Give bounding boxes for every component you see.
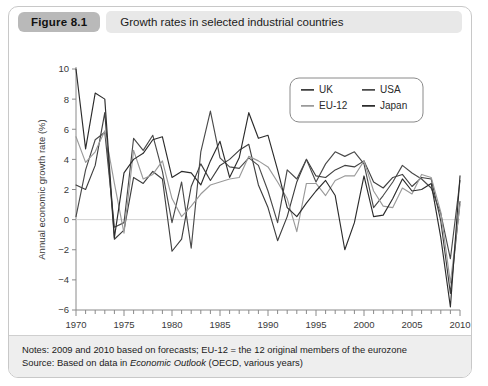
y-tick-label: 10: [58, 63, 69, 74]
source-suffix: (OECD, various years): [206, 357, 303, 368]
y-tick-label: −6: [58, 304, 69, 315]
y-tick-label: −2: [58, 244, 69, 255]
y-axis-title: Annual economic growth rate (%): [36, 119, 47, 259]
line-chart: −6−4−20246810197019751980198519901995200…: [9, 37, 472, 337]
y-axis-label: Annual economic growth rate (%): [36, 119, 47, 259]
page-title: Growth rates in selected industrial coun…: [106, 16, 343, 28]
y-tick-label: 0: [64, 214, 69, 225]
source-title: Economic Outlook: [130, 357, 206, 368]
source-line: Source: Based on data in Economic Outloo…: [22, 356, 471, 369]
x-tick-label: 1995: [305, 319, 326, 330]
legend-label-uk: UK: [319, 84, 333, 95]
y-tick-label: 8: [64, 94, 69, 105]
legend-label-japan: Japan: [380, 100, 407, 111]
figure-footer: Notes: 2009 and 2010 based on forecasts;…: [9, 335, 471, 377]
x-tick-label: 2000: [353, 319, 374, 330]
notes-line: Notes: 2009 and 2010 based on forecasts;…: [22, 343, 471, 356]
chart-area: −6−4−20246810197019751980198519901995200…: [9, 37, 472, 337]
y-tick-label: 2: [64, 184, 69, 195]
y-tick-label: −4: [58, 274, 69, 285]
y-tick-label: 6: [64, 124, 69, 135]
x-tick-label: 1985: [209, 319, 230, 330]
x-tick-label: 1970: [65, 319, 86, 330]
chart-legend: UKUSAEU-12Japan: [290, 78, 423, 122]
figure-title-strip: Growth rates in selected industrial coun…: [106, 11, 462, 33]
series-line-usa: [76, 111, 460, 259]
legend-label-eu-12: EU-12: [319, 100, 348, 111]
x-tick-label: 2010: [449, 319, 470, 330]
x-tick-label: 2005: [401, 319, 422, 330]
figure-card: Figure 8.1 Growth rates in selected indu…: [8, 6, 472, 378]
figure-header: Figure 8.1 Growth rates in selected indu…: [9, 7, 471, 37]
source-prefix: Source: Based on data in: [22, 357, 130, 368]
legend-label-usa: USA: [380, 84, 401, 95]
figure-number-badge: Figure 8.1: [18, 12, 100, 32]
x-tick-label: 1975: [113, 319, 134, 330]
x-tick-label: 1990: [257, 319, 278, 330]
y-tick-label: 4: [64, 154, 69, 165]
figure-body: −6−4−20246810197019751980198519901995200…: [9, 37, 471, 337]
x-tick-label: 1980: [161, 319, 182, 330]
